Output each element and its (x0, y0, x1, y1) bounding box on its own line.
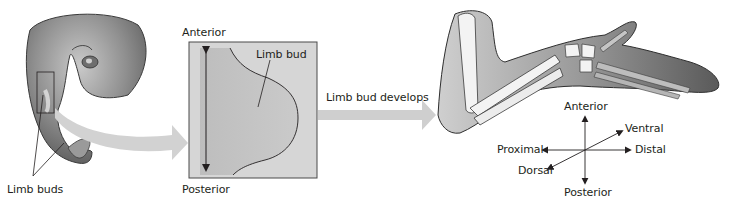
limb-buds-label: Limb buds (7, 183, 63, 196)
axis-posterior-label: Posterior (564, 186, 612, 199)
limb-bud-box (189, 42, 317, 178)
limb-bud-label: Limb bud (256, 48, 307, 61)
axis-anterior-label: Anterior (564, 100, 608, 113)
box-anterior-label: Anterior (182, 26, 226, 39)
diagram-canvas (0, 0, 730, 210)
embryo-illustration (26, 14, 146, 176)
dorsal-arrow-icon (548, 150, 585, 169)
axis-distal-label: Distal (635, 143, 666, 156)
ventral-arrow-icon (585, 131, 622, 150)
developed-limb-illustration (438, 11, 719, 134)
axis-dorsal-label: Dorsal (518, 164, 553, 177)
axis-ventral-label: Ventral (625, 122, 663, 135)
limb-bud-develops-label: Limb bud develops (326, 91, 429, 104)
orientation-axes (543, 117, 630, 183)
box-posterior-label: Posterior (182, 183, 230, 196)
axis-proximal-label: Proximal (497, 143, 543, 156)
limb-bud-develops-arrow-icon (318, 100, 436, 130)
